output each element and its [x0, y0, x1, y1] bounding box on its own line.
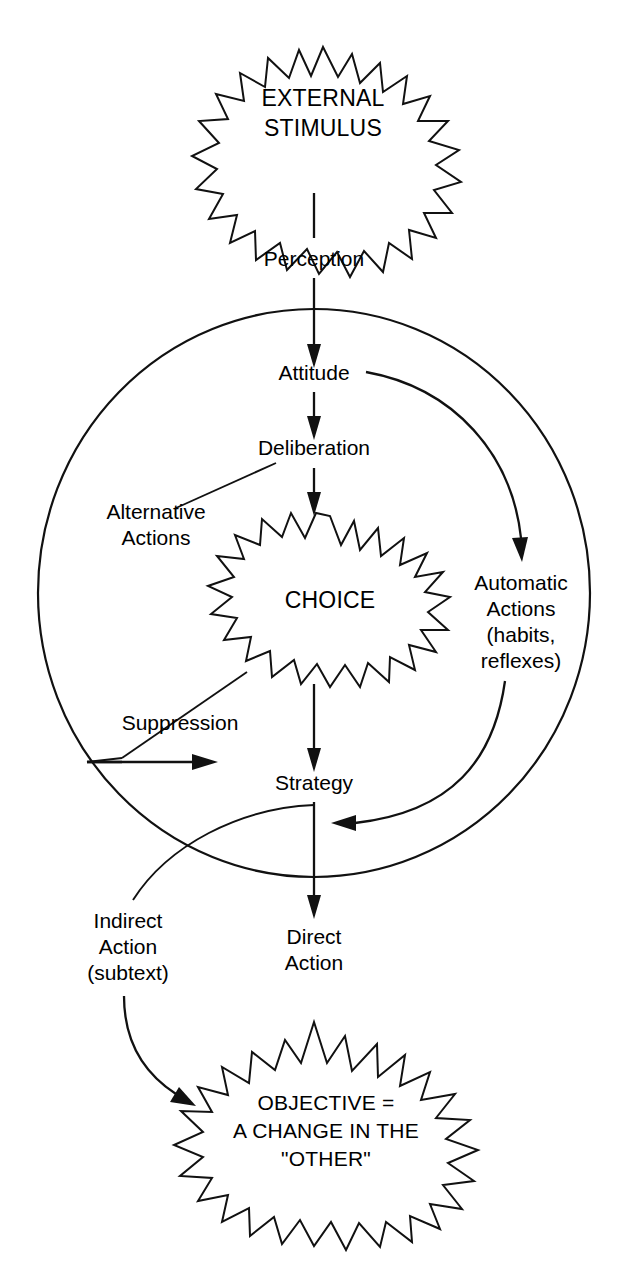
objective-line3: "OTHER" [281, 1147, 371, 1170]
indirect-action-line1: Indirect [94, 909, 163, 932]
arrowhead-direct-action [307, 895, 321, 919]
deliberation-label: Deliberation [258, 436, 370, 459]
arrowhead-choice [307, 492, 321, 516]
direct-action-line2: Action [285, 951, 343, 974]
edge-indirect-action-to-objective [124, 996, 176, 1094]
strategy-label: Strategy [275, 771, 354, 794]
edge-automatic-actions-to-strategy [355, 681, 505, 823]
attitude-label: Attitude [278, 361, 349, 384]
suppression-label: Suppression [122, 711, 239, 734]
leader-strategy-to-indirect-action [133, 805, 314, 900]
automatic-actions-line2: Actions [487, 597, 556, 620]
edge-attitude-to-automatic-actions [366, 372, 521, 538]
diagram-canvas: EXTERNAL STIMULUS Perception Attitude De… [0, 0, 620, 1264]
arrowhead-suppression [192, 754, 218, 770]
choice-label: CHOICE [285, 587, 376, 613]
arrowhead-strategy-from-automatic [331, 815, 356, 831]
external-stimulus-starburst [192, 47, 461, 277]
automatic-actions-line1: Automatic [474, 571, 567, 594]
indirect-action-line3: (subtext) [87, 961, 169, 984]
external-stimulus-line2: STIMULUS [264, 115, 382, 141]
arrowhead-objective-from-indirect [170, 1087, 196, 1106]
objective-node: OBJECTIVE = A CHANGE IN THE "OTHER" [174, 1022, 478, 1250]
automatic-actions-line4: reflexes) [481, 649, 562, 672]
flow-diagram-svg: EXTERNAL STIMULUS Perception Attitude De… [0, 0, 620, 1264]
alternative-actions-line2: Actions [122, 526, 191, 549]
choice-node: CHOICE [208, 513, 450, 687]
arrowhead-automatic-actions [512, 537, 528, 562]
alternative-actions-line1: Alternative [106, 500, 205, 523]
external-stimulus-node: EXTERNAL STIMULUS [192, 47, 461, 277]
perception-label: Perception [264, 247, 364, 270]
external-stimulus-line1: EXTERNAL [261, 85, 384, 111]
direct-action-line1: Direct [287, 925, 342, 948]
objective-line1: OBJECTIVE = [258, 1091, 395, 1114]
objective-line2: A CHANGE IN THE [233, 1119, 419, 1142]
automatic-actions-line3: (habits, [487, 623, 556, 646]
indirect-action-line2: Action [99, 935, 157, 958]
arrowhead-strategy [307, 748, 321, 772]
